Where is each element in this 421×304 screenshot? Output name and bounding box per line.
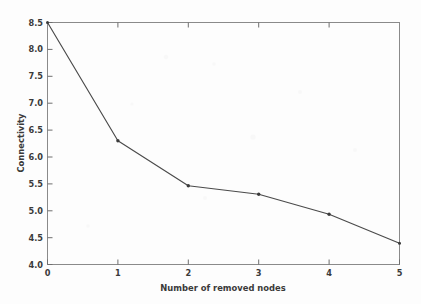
x-tick-label: 3 [256, 268, 262, 278]
data-point [46, 21, 49, 24]
data-point [187, 184, 190, 187]
data-point [116, 139, 119, 142]
y-tick-label: 6.5 [28, 125, 43, 135]
figure-background [0, 0, 421, 304]
data-point [398, 242, 401, 245]
y-tick-label: 8.0 [28, 44, 43, 54]
connectivity-line-chart: 8.5 8.0 7.5 7.0 6.5 6.0 5.5 5.0 4.5 4.0 … [0, 0, 421, 304]
y-tick-label: 7.0 [28, 98, 43, 108]
y-tick-label: 4.5 [28, 233, 43, 243]
x-tick-label: 2 [185, 268, 191, 278]
y-tick-label: 5.5 [28, 179, 43, 189]
chart-figure: 8.5 8.0 7.5 7.0 6.5 6.0 5.5 5.0 4.5 4.0 … [0, 0, 421, 304]
x-tick-label: 1 [115, 268, 121, 278]
x-axis-title: Number of removed nodes [160, 283, 285, 293]
y-tick-label: 4.0 [28, 260, 43, 270]
y-tick-label: 6.0 [28, 152, 43, 162]
y-tick-label: 7.5 [28, 71, 43, 81]
y-axis-title: Connectivity [16, 113, 26, 173]
data-point [327, 213, 330, 216]
data-point [257, 193, 260, 196]
x-tick-label: 0 [45, 268, 51, 278]
y-tick-label: 5.0 [28, 206, 43, 216]
x-tick-label: 4 [326, 268, 332, 278]
y-tick-label: 8.5 [28, 18, 43, 28]
x-tick-label: 5 [397, 268, 403, 278]
